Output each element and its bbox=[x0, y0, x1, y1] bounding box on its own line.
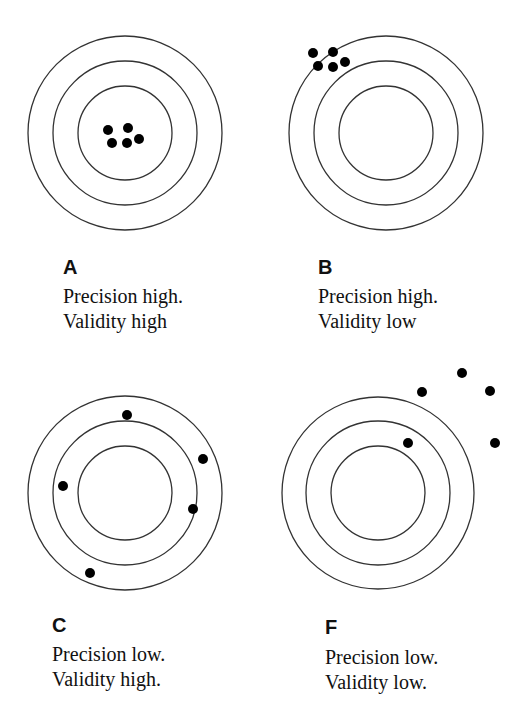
target-ring-2 bbox=[53, 421, 197, 565]
target-ring-3 bbox=[339, 86, 433, 180]
shot-dot bbox=[122, 138, 132, 148]
panel-f-caption: Precision low. Validity low. bbox=[325, 645, 438, 695]
target-ring-1 bbox=[28, 396, 222, 590]
panel-b-precision: Precision high. bbox=[318, 284, 438, 309]
shot-dot bbox=[485, 386, 495, 396]
shot-dot bbox=[417, 387, 427, 397]
shot-dot bbox=[103, 125, 113, 135]
panel-f-letter: F bbox=[325, 617, 337, 637]
panel-a-validity: Validity high bbox=[63, 309, 183, 334]
shot-dot bbox=[490, 438, 500, 448]
panel-f-precision: Precision low. bbox=[325, 645, 438, 670]
shot-dot bbox=[107, 138, 117, 148]
shot-dot bbox=[340, 57, 350, 67]
panel-c-letter: C bbox=[52, 615, 66, 635]
shot-dot bbox=[122, 410, 132, 420]
panel-b-letter: B bbox=[318, 257, 332, 277]
precision-validity-diagram bbox=[0, 0, 519, 720]
shot-dot bbox=[58, 481, 68, 491]
shot-dot bbox=[123, 123, 133, 133]
panel-f-validity: Validity low. bbox=[325, 670, 438, 695]
shot-dot bbox=[457, 368, 467, 378]
target-ring-2 bbox=[314, 61, 458, 205]
shot-dot bbox=[313, 61, 323, 71]
target-b bbox=[289, 36, 483, 230]
shot-dot bbox=[85, 568, 95, 578]
panel-c-caption: Precision low. Validity high. bbox=[52, 642, 165, 692]
target-ring-2 bbox=[53, 61, 197, 205]
target-f bbox=[282, 368, 500, 589]
shot-dot bbox=[188, 504, 198, 514]
panel-a-caption: Precision high. Validity high bbox=[63, 284, 183, 334]
shot-dot bbox=[308, 48, 318, 58]
target-ring-1 bbox=[282, 397, 474, 589]
panel-b-caption: Precision high. Validity low bbox=[318, 284, 438, 334]
panel-c-precision: Precision low. bbox=[52, 642, 165, 667]
panel-a-precision: Precision high. bbox=[63, 284, 183, 309]
shot-dot bbox=[328, 62, 338, 72]
shot-dot bbox=[198, 454, 208, 464]
target-ring-2 bbox=[306, 421, 450, 565]
panel-a-letter: A bbox=[63, 257, 77, 277]
shot-dot bbox=[134, 134, 144, 144]
shot-dot bbox=[328, 47, 338, 57]
target-ring-3 bbox=[78, 86, 172, 180]
target-c bbox=[28, 396, 222, 590]
target-ring-1 bbox=[28, 36, 222, 230]
panel-c-validity: Validity high. bbox=[52, 667, 165, 692]
target-ring-3 bbox=[78, 446, 172, 540]
target-ring-3 bbox=[331, 446, 425, 540]
panel-b-validity: Validity low bbox=[318, 309, 438, 334]
shot-dot bbox=[403, 438, 413, 448]
target-a bbox=[28, 36, 222, 230]
